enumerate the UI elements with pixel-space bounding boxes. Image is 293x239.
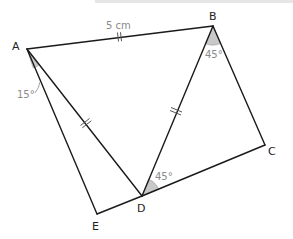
angle-label-b: 45° [205,49,223,60]
vertex-label-d: D [137,202,145,215]
vertex-label-b: B [209,10,217,23]
cutoff-header-text [95,0,293,3]
vertex-label-e: E [92,220,99,233]
angle-arc-b [205,26,220,45]
length-label-ab: 5 cm [106,20,131,31]
vertex-label-c: C [268,145,276,158]
geometry-diagram: A B C D E 5 cm 15° 45° 45° [0,0,293,239]
vertex-label-a: A [12,40,20,53]
tick-marks-ab [118,32,122,41]
angle-label-a: 15° [17,89,35,100]
angle-a-leader-line [35,82,40,93]
angle-label-d: 45° [155,171,173,182]
edge-ed [97,196,142,214]
edge-bc [213,26,265,145]
edge-ae [27,49,97,214]
